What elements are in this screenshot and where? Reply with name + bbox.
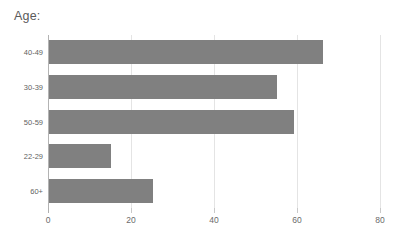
bar-60+[interactable] xyxy=(49,179,153,203)
x-tick-mark-20 xyxy=(131,208,132,213)
x-tick-label-40: 40 xyxy=(209,215,218,225)
x-tick-mark-0 xyxy=(48,208,49,213)
y-category-label-50-59: 50-59 xyxy=(24,117,48,126)
gridline-x-80 xyxy=(380,35,381,208)
bars-layer xyxy=(48,35,380,208)
y-category-label-40-49: 40-49 xyxy=(24,48,48,57)
x-tick-label-80: 80 xyxy=(375,215,384,225)
y-category-label-60+: 60+ xyxy=(30,186,48,195)
bar-40-49[interactable] xyxy=(49,40,323,64)
y-category-label-22-29: 22-29 xyxy=(24,152,48,161)
x-tick-label-60: 60 xyxy=(292,215,301,225)
x-tick-mark-60 xyxy=(297,208,298,213)
x-tick-label-20: 20 xyxy=(126,215,135,225)
y-category-label-30-39: 30-39 xyxy=(24,82,48,91)
x-tick-label-0: 0 xyxy=(46,215,51,225)
plot-area xyxy=(48,35,380,208)
bar-50-59[interactable] xyxy=(49,110,294,134)
bar-22-29[interactable] xyxy=(49,144,111,168)
x-tick-mark-40 xyxy=(214,208,215,213)
bar-chart: Age: 020406080 40-4930-3950-5922-2960+ xyxy=(0,0,404,243)
chart-title: Age: xyxy=(14,9,41,23)
bar-30-39[interactable] xyxy=(49,75,277,99)
x-tick-mark-80 xyxy=(380,208,381,213)
